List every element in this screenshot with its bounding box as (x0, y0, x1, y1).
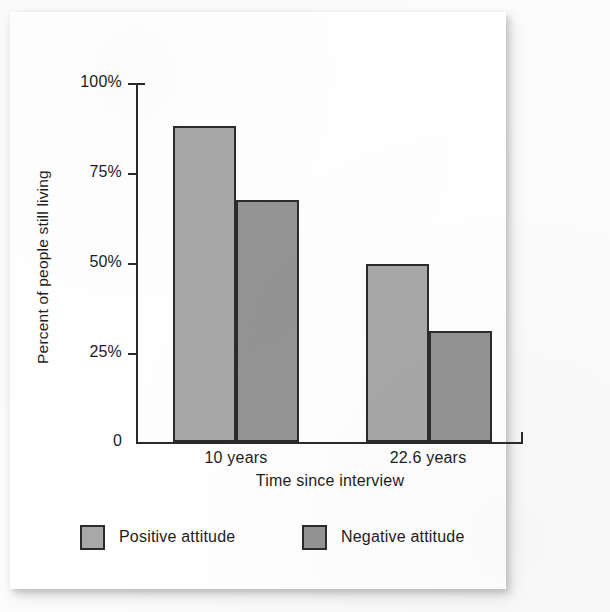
legend-label-negative: Negative attitude (341, 528, 464, 546)
x-axis-end-cap (521, 432, 523, 444)
legend-item-positive[interactable]: Positive attitude (80, 522, 235, 552)
bar-positive-22-6-years[interactable] (366, 264, 429, 442)
y-tick-mark-100 (128, 83, 137, 85)
x-axis-title: Time since interview (137, 472, 523, 490)
y-tick-mark-50 (128, 263, 137, 265)
chart-legend: Positive attitude Negative attitude (80, 522, 500, 556)
y-tick-label-25: 25% (50, 343, 122, 361)
bar-positive-10-years[interactable] (173, 126, 236, 442)
y-tick-label-75: 75% (50, 163, 122, 181)
y-tick-mark-25 (128, 353, 137, 355)
x-category-label-22-6-years: 22.6 years (365, 449, 491, 467)
y-tick-mark-75 (128, 173, 137, 175)
legend-swatch-positive (80, 525, 105, 550)
y-axis-top-cap (136, 83, 145, 85)
bar-negative-10-years[interactable] (236, 200, 299, 442)
y-tick-label-0: 0 (50, 432, 122, 450)
x-category-label-10-years: 10 years (173, 449, 299, 467)
legend-swatch-negative (302, 525, 327, 550)
y-axis-title: Percent of people still living (34, 162, 52, 372)
y-tick-label-100: 100% (50, 73, 122, 91)
legend-item-negative[interactable]: Negative attitude (302, 522, 464, 552)
bar-negative-22-6-years[interactable] (429, 331, 492, 442)
y-tick-label-50: 50% (50, 253, 122, 271)
legend-label-positive: Positive attitude (119, 528, 235, 546)
x-axis-line (136, 442, 523, 444)
bar-chart-figure: 100% 75% 50% 25% 0 10 years 22.6 years T… (0, 0, 610, 612)
